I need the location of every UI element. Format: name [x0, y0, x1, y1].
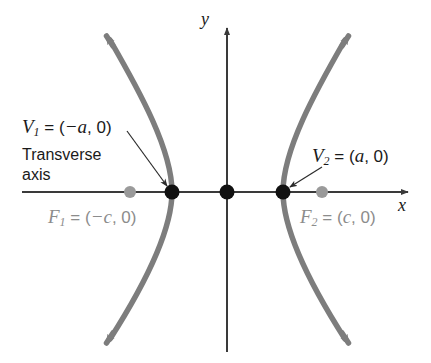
transverse-axis-label-line2: axis	[22, 167, 50, 183]
hyperbola-right-upper-arrow	[342, 36, 349, 46]
focus-left-label-var: F	[48, 206, 60, 227]
vertex-left-label-rest: , 0)	[87, 118, 112, 137]
focus-right-label: F2 = (c, 0)	[300, 207, 376, 228]
hyperbola-figure: y x V1 = (−a, 0) Transverse axis F1 = (−…	[0, 0, 431, 363]
y-axis-label: y	[201, 10, 209, 28]
focus-left-dot	[124, 186, 136, 198]
vertex-left-label-var: V	[22, 116, 34, 137]
vertex-right-label-var: V	[312, 145, 324, 166]
x-axis-label: x	[398, 196, 406, 214]
vertex-left-label: V1 = (−a, 0)	[22, 117, 112, 138]
vertex-left-label-eq: = (	[40, 118, 65, 137]
focus-right-label-var: F	[300, 206, 312, 227]
vertex-right-label-eq: = (	[330, 147, 355, 166]
vertex-left-label-coord: −a	[65, 116, 87, 137]
vertex-right-label-coord: a	[355, 145, 365, 166]
transverse-axis-label-line1: Transverse	[22, 147, 101, 163]
hyperbola-left-upper-arrow	[107, 36, 114, 46]
vertex-right-pointer	[290, 167, 322, 187]
hyperbola-left-lower-arrow	[107, 333, 114, 343]
focus-right-label-rest: , 0)	[351, 208, 376, 227]
focus-left-label-eq: = (	[66, 208, 91, 227]
hyperbola-right-branch	[283, 40, 345, 339]
focus-left-label: F1 = (−c, 0)	[48, 207, 136, 228]
focus-right-label-coord: c	[343, 206, 351, 227]
focus-left-label-coord: −c	[91, 206, 112, 227]
vertex-right-dot	[276, 185, 291, 200]
vertex-left-dot	[165, 185, 180, 200]
vertex-right-label-rest: , 0)	[364, 147, 389, 166]
focus-left-label-rest: , 0)	[112, 208, 137, 227]
focus-right-label-eq: = (	[318, 208, 343, 227]
hyperbola-right-lower-arrow	[342, 333, 349, 343]
focus-right-dot	[316, 186, 328, 198]
hyperbola-left-branch	[110, 40, 172, 339]
figure-canvas	[0, 0, 431, 363]
vertex-right-label: V2 = (a, 0)	[312, 146, 389, 167]
center-dot	[220, 185, 235, 200]
